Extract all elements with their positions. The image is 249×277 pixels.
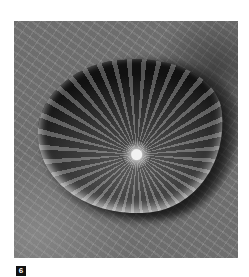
figure-number-label: 6 xyxy=(16,266,26,276)
figure-photo xyxy=(14,21,238,258)
